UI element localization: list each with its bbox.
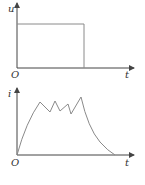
bottom-graph: i O t xyxy=(8,88,134,168)
top-y-label: u xyxy=(8,3,14,14)
diagram-canvas: u O t i O t xyxy=(0,0,145,185)
current-curve xyxy=(17,97,115,155)
bottom-origin-label: O xyxy=(11,157,19,168)
voltage-pulse xyxy=(17,24,84,68)
top-x-label: t xyxy=(125,69,130,80)
top-origin-label: O xyxy=(11,69,19,80)
bottom-x-label: t xyxy=(125,157,130,168)
bottom-y-label: i xyxy=(8,88,11,99)
top-graph: u O t xyxy=(8,3,134,80)
